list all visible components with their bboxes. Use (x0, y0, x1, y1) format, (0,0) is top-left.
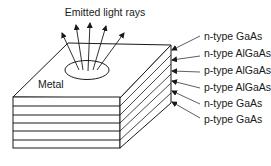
layer-label-5: n-type GaAs (204, 97, 262, 109)
title-emitted-light-rays: Emitted light rays (65, 6, 146, 18)
layer-label-6: p-type GaAs (204, 113, 262, 125)
pointer-arrow-icon (172, 91, 200, 104)
label-metal: Metal (38, 78, 64, 90)
pointer-arrow-icon (172, 81, 200, 88)
pointer-arrow-icon (172, 71, 200, 72)
led-layer-diagram: Emitted light rays (0, 0, 271, 166)
front-face-layers (13, 97, 120, 148)
pointer-arrow-icon (172, 102, 200, 118)
layer-label-1: n-type GaAs (204, 30, 262, 42)
layer-label-3: p-type AlGaAs (204, 64, 271, 76)
layer-label-2: n-type AlGaAs (204, 47, 271, 59)
layer-pointer-arrows (172, 36, 200, 118)
pointer-arrow-icon (172, 56, 200, 60)
layer-label-4: p-type AlGaAs (204, 81, 271, 93)
diagram-canvas: Emitted light rays (0, 0, 271, 166)
pointer-arrow-icon (172, 36, 200, 50)
